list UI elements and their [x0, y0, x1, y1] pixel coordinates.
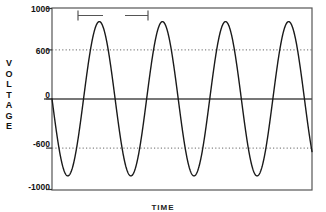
voltage-vs-time-chart: V O L T A G E 1000 600 0 -600 -1000 λ TI…: [0, 0, 326, 212]
period-bracket: [78, 10, 148, 21]
period-bracket-label-gap: [103, 10, 125, 21]
plot-canvas: [0, 0, 326, 212]
